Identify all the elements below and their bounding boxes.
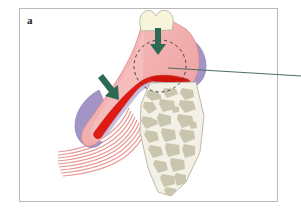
illustration-canvas [0, 0, 301, 209]
figure-panel: a [0, 0, 301, 209]
callout-leader-line-extension [277, 75, 301, 77]
panel-label: a [27, 15, 33, 26]
tooth-crown [140, 10, 174, 31]
